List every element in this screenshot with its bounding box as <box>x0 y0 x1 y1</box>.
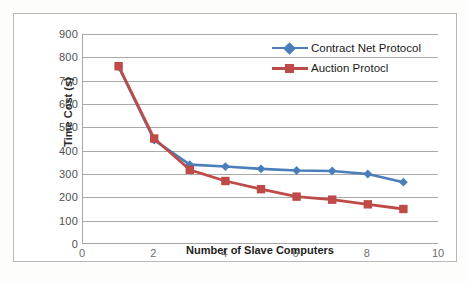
diamond-marker-icon <box>292 166 301 175</box>
square-marker-icon <box>221 177 229 185</box>
y-axis-tick-label: 100 <box>32 215 78 227</box>
diamond-marker-icon <box>272 41 308 55</box>
y-axis-tick-label: 200 <box>32 191 78 203</box>
chart-legend: Contract Net Protocol Auction Protocl <box>272 38 450 78</box>
square-marker-icon <box>292 192 300 200</box>
square-marker-icon <box>328 195 336 203</box>
square-marker-icon <box>364 200 372 208</box>
square-marker-icon <box>257 185 265 193</box>
square-marker-icon <box>150 134 158 142</box>
legend-item: Auction Protocl <box>272 58 450 78</box>
square-marker-icon <box>186 166 194 174</box>
diamond-marker-icon <box>257 164 266 173</box>
y-axis-tick-label: 900 <box>32 28 78 40</box>
square-marker-icon <box>114 62 122 70</box>
diamond-marker-icon <box>221 162 230 171</box>
square-marker-icon <box>399 205 407 213</box>
y-axis-title: Time Cost (s) <box>62 52 74 172</box>
legend-item-label: Auction Protocl <box>311 62 388 74</box>
diamond-marker-icon <box>363 170 372 179</box>
diamond-marker-icon <box>328 167 337 176</box>
x-axis-title: Number of Slave Computers <box>82 244 438 256</box>
square-marker-icon <box>272 61 308 75</box>
chart-frame: 0100200300400500600700800900 Time Cost (… <box>13 13 457 262</box>
legend-item-label: Contract Net Protocol <box>311 42 421 54</box>
scanned-page: 0100200300400500600700800900 Time Cost (… <box>0 0 467 284</box>
diamond-marker-icon <box>399 178 408 187</box>
legend-item: Contract Net Protocol <box>272 38 450 58</box>
